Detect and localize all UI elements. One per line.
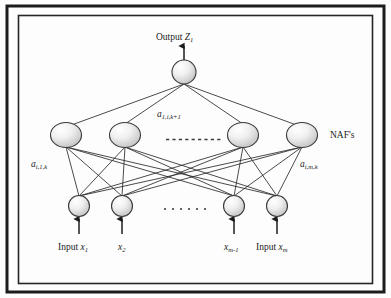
- node-input-4[interactable]: [267, 196, 288, 217]
- node-output-1[interactable]: [172, 60, 196, 84]
- output-label: Output Z1: [156, 33, 193, 43]
- left-weight-subscript: i,1,k: [36, 163, 47, 170]
- figure-root: Output Z1 a1,i,k+1 ai,1,k ai,m,k NAF's I…: [0, 0, 391, 298]
- input-label-2-subscript: 2: [122, 246, 125, 253]
- input-label-1-prefix: Input: [58, 242, 78, 252]
- naf-label: NAF's: [330, 131, 354, 141]
- input-label-4-prefix: Input: [256, 242, 276, 252]
- node-hidden-2[interactable]: [110, 123, 141, 148]
- input-label-3: xm-1: [224, 243, 238, 253]
- input-label-1-subscript: 1: [85, 246, 88, 253]
- left-weight-label: ai,1,k: [31, 160, 47, 170]
- node-input-3[interactable]: [224, 196, 245, 217]
- output-label-subscript: 1: [190, 36, 193, 43]
- output-label-prefix: Output: [156, 32, 182, 42]
- node-hidden-3[interactable]: [228, 123, 259, 148]
- hidden-weight-label: a1,i,k+1: [157, 110, 181, 120]
- node-input-1[interactable]: [69, 196, 90, 217]
- neural-network-diagram: [0, 0, 391, 298]
- right-weight-label: ai,m,k: [300, 160, 318, 170]
- input-label-3-subscript: m-1: [228, 246, 238, 253]
- node-hidden-1[interactable]: [51, 123, 82, 148]
- hidden-weight-subscript: 1,i,k+1: [162, 113, 181, 120]
- node-hidden-4[interactable]: [287, 123, 318, 148]
- input-label-1: Input x1: [58, 243, 88, 253]
- node-input-2[interactable]: [112, 196, 133, 217]
- input-label-4: Input xm: [256, 243, 287, 253]
- input-label-2: x2: [118, 243, 126, 253]
- right-weight-subscript: i,m,k: [305, 163, 318, 170]
- input-label-4-subscript: m: [283, 246, 288, 253]
